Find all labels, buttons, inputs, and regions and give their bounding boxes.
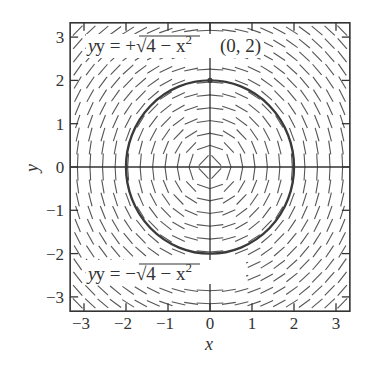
- slope-segment: [122, 286, 133, 294]
- slope-segment: [338, 259, 346, 271]
- slope-segment: [337, 298, 347, 308]
- slope-segment: [73, 272, 82, 283]
- slope-segment: [302, 128, 306, 141]
- slope-segment: [115, 167, 116, 181]
- slope-segment: [209, 290, 223, 291]
- slope-segment: [147, 301, 160, 307]
- annotation-lower-sup: 2: [186, 260, 193, 275]
- slope-segment: [223, 196, 235, 203]
- slope-segment: [248, 248, 260, 255]
- y-axis-label: y: [22, 164, 42, 174]
- slope-segment: [278, 141, 282, 155]
- slope-segment: [136, 91, 146, 101]
- slope-segment: [189, 167, 193, 180]
- slope-segment: [124, 90, 133, 101]
- slope-segment: [77, 167, 78, 181]
- slope-segment: [266, 154, 268, 168]
- slope-segment: [125, 115, 131, 127]
- slope-segment: [273, 27, 285, 34]
- annotation-upper-sup: 2: [186, 32, 193, 47]
- slope-segment: [175, 141, 182, 153]
- slope-segment: [75, 102, 80, 115]
- slope-segment: [274, 91, 284, 101]
- y-tick-label: 0: [56, 158, 65, 177]
- slope-segment: [325, 51, 334, 62]
- slope-segment: [314, 219, 320, 231]
- slope-segment: [159, 28, 172, 33]
- slope-segment: [87, 102, 93, 115]
- slope-segment: [112, 219, 119, 231]
- slope-segment: [101, 128, 105, 141]
- slope-segment: [209, 238, 223, 239]
- slope-segment: [197, 238, 211, 239]
- slope-segment: [113, 115, 119, 128]
- slope-segment: [85, 285, 95, 295]
- slope-segment: [147, 287, 160, 293]
- slope-segment: [177, 167, 180, 181]
- slope-segment: [287, 90, 296, 101]
- slope-segment: [261, 274, 273, 281]
- slope-segment: [286, 286, 297, 294]
- slope-segment: [112, 102, 119, 114]
- slope-segment: [174, 194, 184, 204]
- slope-segment: [261, 78, 272, 86]
- slope-segment: [197, 198, 211, 201]
- slope-segment: [235, 29, 249, 32]
- slope-segment: [124, 220, 132, 232]
- slope-segment: [197, 290, 211, 291]
- slope-segment: [74, 64, 82, 76]
- slope-segment: [251, 180, 256, 193]
- x-tick-label: 0: [206, 314, 215, 333]
- slope-segment: [273, 287, 285, 294]
- slope-segment: [98, 286, 108, 295]
- slope-segment: [274, 247, 285, 256]
- slope-segment: [329, 154, 330, 168]
- slope-segment: [312, 299, 323, 308]
- slope-segment: [274, 65, 285, 73]
- slope-segment: [147, 66, 159, 73]
- slope-segment: [325, 39, 335, 49]
- slope-segment: [289, 115, 295, 127]
- slope-segment: [299, 39, 310, 48]
- slope-segment: [287, 260, 297, 269]
- slope-segment: [135, 78, 146, 87]
- slope-segment: [184, 237, 197, 241]
- slope-segment: [123, 78, 133, 88]
- slope-segment: [224, 142, 234, 152]
- slope-segment: [209, 225, 223, 227]
- slope-segment: [197, 30, 211, 31]
- slope-segment: [222, 237, 235, 241]
- slope-segment: [122, 300, 134, 308]
- slope-segment: [73, 51, 82, 62]
- slope-segment: [316, 180, 318, 194]
- slope-segment: [326, 246, 334, 258]
- slope-segment: [138, 193, 144, 206]
- slope-segment: [199, 155, 209, 165]
- slope-segment: [240, 167, 243, 181]
- slope-segment: [222, 302, 236, 304]
- slope-segment: [286, 40, 297, 48]
- slope-segment: [85, 26, 95, 36]
- slope-segment: [313, 246, 321, 257]
- slope-segment: [113, 193, 117, 206]
- slope-segment: [265, 180, 269, 193]
- slope-segment: [342, 167, 343, 181]
- slope-segment: [273, 300, 285, 307]
- slope-segment: [114, 180, 117, 194]
- slope-segment: [327, 219, 333, 232]
- slope-segment: [98, 299, 109, 308]
- slope-segment: [300, 77, 309, 88]
- slope-segment: [75, 219, 80, 232]
- slope-segment: [111, 65, 121, 75]
- slope-segment: [76, 128, 79, 142]
- slope-segment: [86, 64, 95, 75]
- slope-segment: [138, 128, 144, 141]
- slope-segment: [248, 288, 261, 293]
- slope-segment: [338, 38, 347, 49]
- slope-segment: [312, 286, 322, 295]
- slope-segment: [288, 220, 296, 232]
- y-tick-label: −2: [46, 245, 64, 264]
- slope-segment: [199, 168, 209, 178]
- slope-segment: [172, 302, 186, 305]
- slope-segment: [124, 103, 132, 115]
